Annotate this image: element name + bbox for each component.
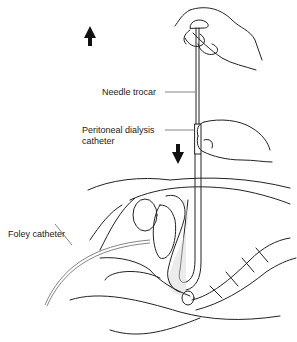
label-needle-trocar: Needle trocar: [102, 87, 156, 97]
trocar-cap: [190, 20, 208, 28]
pelvic-anatomy: [70, 178, 296, 334]
illustration: [0, 0, 297, 342]
down-arrow-icon: [172, 144, 184, 164]
up-arrow-icon: [84, 26, 96, 46]
lower-hand: [197, 120, 272, 162]
label-foley-catheter: Foley catheter: [8, 229, 65, 239]
label-pd-catheter-line2: catheter: [82, 136, 115, 146]
label-pd-catheter-line1: Peritoneal dialysis: [82, 125, 155, 135]
needle-trocar: [196, 28, 199, 124]
upper-hand: [175, 8, 262, 70]
